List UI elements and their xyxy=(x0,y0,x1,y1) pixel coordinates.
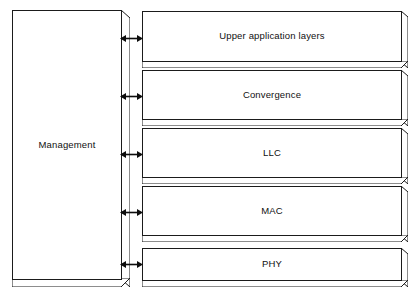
layer-label-llc: LLC xyxy=(263,148,281,158)
layer-label-phy: PHY xyxy=(262,259,282,269)
layer-block-bottom-panel xyxy=(142,119,408,126)
layer-block-face: Convergence xyxy=(142,70,402,120)
layer-label-convergence: Convergence xyxy=(243,90,301,100)
layer-block-upper-application-layers[interactable]: Upper application layers xyxy=(142,11,408,68)
connector-arrow-mac[interactable] xyxy=(120,207,143,218)
layer-block-side-panel xyxy=(401,128,408,184)
layer-block-face: LLC xyxy=(142,128,402,178)
layer-block-bottom-panel xyxy=(142,177,408,184)
layer-block-side-panel xyxy=(401,186,408,242)
layer-block-bottom-panel xyxy=(142,280,408,287)
layer-label-upper-application-layers: Upper application layers xyxy=(219,31,325,41)
layer-block-mac[interactable]: MAC xyxy=(142,186,408,242)
layer-block-face: PHY xyxy=(142,248,402,281)
layer-block-bottom-panel xyxy=(142,61,408,68)
layer-block-llc[interactable]: LLC xyxy=(142,128,408,184)
layer-block-side-panel xyxy=(401,70,408,126)
management-block-label: Management xyxy=(39,140,96,150)
connector-arrow-upper-application-layers[interactable] xyxy=(120,33,143,44)
diagram-canvas: Management Upper application layers xyxy=(0,0,413,296)
connector-arrow-phy[interactable] xyxy=(120,259,143,270)
connector-arrow-llc[interactable] xyxy=(120,149,143,160)
layer-block-face: Upper application layers xyxy=(142,11,402,62)
layer-block-side-panel xyxy=(401,11,408,68)
layer-label-mac: MAC xyxy=(261,206,283,216)
management-block[interactable]: Management xyxy=(12,10,130,287)
layer-block-convergence[interactable]: Convergence xyxy=(142,70,408,126)
management-block-face: Management xyxy=(12,10,122,280)
layer-block-phy[interactable]: PHY xyxy=(142,248,408,287)
layer-block-bottom-panel xyxy=(142,235,408,242)
connector-arrow-convergence[interactable] xyxy=(120,91,143,102)
layer-block-face: MAC xyxy=(142,186,402,236)
